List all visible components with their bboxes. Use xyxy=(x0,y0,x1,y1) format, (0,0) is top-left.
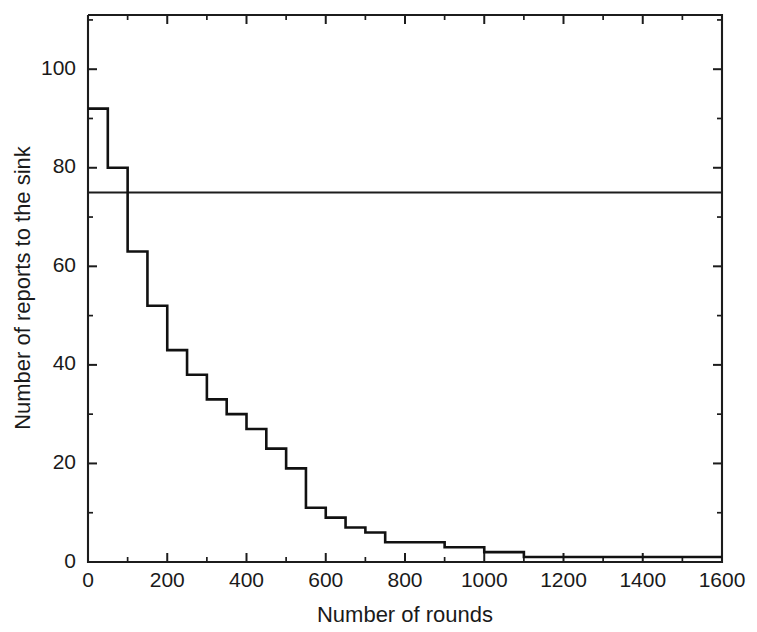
y-tick-label: 80 xyxy=(53,154,76,177)
x-tick-label: 200 xyxy=(150,568,185,591)
x-tick-label: 1000 xyxy=(461,568,508,591)
x-tick-label: 0 xyxy=(82,568,94,591)
axis-box xyxy=(88,15,722,562)
x-tick-label: 1400 xyxy=(619,568,666,591)
y-tick-label: 0 xyxy=(64,549,76,572)
step-chart: 02004006008001000120014001600 0204060801… xyxy=(0,0,757,632)
x-tick-label: 600 xyxy=(308,568,343,591)
x-tick-label: 400 xyxy=(229,568,264,591)
reports-to-sink-step xyxy=(88,109,722,557)
chart-figure: 02004006008001000120014001600 0204060801… xyxy=(0,0,757,632)
y-tick-label: 20 xyxy=(53,450,76,473)
x-tick-label: 1200 xyxy=(540,568,587,591)
y-axis-tick-labels: 020406080100 xyxy=(41,56,76,572)
y-tick-label: 60 xyxy=(53,253,76,276)
y-axis-ticks xyxy=(88,20,722,562)
plot-frame xyxy=(88,15,722,562)
data-series-layer xyxy=(88,109,722,557)
y-axis-title: Number of reports to the sink xyxy=(10,145,35,430)
y-tick-label: 100 xyxy=(41,56,76,79)
x-tick-label: 800 xyxy=(387,568,422,591)
y-tick-label: 40 xyxy=(53,351,76,374)
x-tick-label: 1600 xyxy=(699,568,746,591)
x-axis-ticks xyxy=(88,15,722,562)
x-axis-tick-labels: 02004006008001000120014001600 xyxy=(82,568,745,591)
x-axis-title: Number of rounds xyxy=(317,602,493,627)
